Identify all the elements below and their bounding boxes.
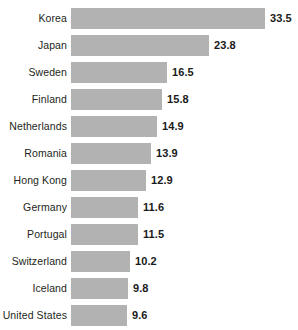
bar-fill bbox=[71, 143, 151, 164]
bar-value-label: 10.2 bbox=[135, 251, 157, 272]
bar-row: Romania13.9 bbox=[0, 143, 298, 164]
category-label: Germany bbox=[0, 197, 67, 218]
category-label: Switzerland bbox=[0, 251, 67, 272]
bar-track bbox=[71, 89, 162, 110]
bar-row: Netherlands14.9 bbox=[0, 116, 298, 137]
bar-row: Hong Kong12.9 bbox=[0, 170, 298, 191]
bar-fill bbox=[71, 116, 157, 137]
bar-track bbox=[71, 197, 138, 218]
bar-row: Germany11.6 bbox=[0, 197, 298, 218]
bar-row: Finland15.8 bbox=[0, 89, 298, 110]
category-label: Finland bbox=[0, 89, 67, 110]
bar-fill bbox=[71, 89, 162, 110]
bar-fill bbox=[71, 35, 209, 56]
bar-value-label: 23.8 bbox=[214, 35, 236, 56]
category-label: United States bbox=[0, 305, 67, 326]
bar-row: Portugal11.5 bbox=[0, 224, 298, 245]
category-label: Portugal bbox=[0, 224, 67, 245]
bar-fill bbox=[71, 278, 128, 299]
category-label: Netherlands bbox=[0, 116, 67, 137]
bar-row: Japan23.8 bbox=[0, 35, 298, 56]
bar-track bbox=[71, 143, 151, 164]
bar-track bbox=[71, 116, 157, 137]
bar-fill bbox=[71, 224, 138, 245]
bar-chart: Korea33.5Japan23.8Sweden16.5Finland15.8N… bbox=[0, 0, 298, 330]
bar-value-label: 9.8 bbox=[133, 278, 149, 299]
category-label: Hong Kong bbox=[0, 170, 67, 191]
category-label: Korea bbox=[0, 8, 67, 29]
bar-track bbox=[71, 35, 209, 56]
category-label: Romania bbox=[0, 143, 67, 164]
bar-fill bbox=[71, 170, 146, 191]
bar-track bbox=[71, 224, 138, 245]
bar-row: Korea33.5 bbox=[0, 8, 298, 29]
bar-fill bbox=[71, 251, 130, 272]
bar-value-label: 9.6 bbox=[132, 305, 148, 326]
bar-row: Iceland9.8 bbox=[0, 278, 298, 299]
bar-track bbox=[71, 305, 127, 326]
bar-track bbox=[71, 278, 128, 299]
category-label: Iceland bbox=[0, 278, 67, 299]
bar-value-label: 11.5 bbox=[143, 224, 164, 245]
bar-value-label: 14.9 bbox=[162, 116, 184, 137]
bar-track bbox=[71, 8, 265, 29]
category-label: Japan bbox=[0, 35, 67, 56]
bar-value-label: 15.8 bbox=[167, 89, 189, 110]
bar-row: Switzerland10.2 bbox=[0, 251, 298, 272]
bar-value-label: 16.5 bbox=[172, 62, 194, 83]
bar-value-label: 33.5 bbox=[270, 8, 292, 29]
bar-track bbox=[71, 62, 167, 83]
bar-row: Sweden16.5 bbox=[0, 62, 298, 83]
bar-fill bbox=[71, 62, 167, 83]
category-label: Sweden bbox=[0, 62, 67, 83]
bar-value-label: 12.9 bbox=[151, 170, 173, 191]
bar-track bbox=[71, 170, 146, 191]
bar-fill bbox=[71, 305, 127, 326]
bar-track bbox=[71, 251, 130, 272]
bar-fill bbox=[71, 197, 138, 218]
bar-fill bbox=[71, 8, 265, 29]
bar-value-label: 13.9 bbox=[156, 143, 178, 164]
bar-row: United States9.6 bbox=[0, 305, 298, 326]
bar-value-label: 11.6 bbox=[143, 197, 164, 218]
